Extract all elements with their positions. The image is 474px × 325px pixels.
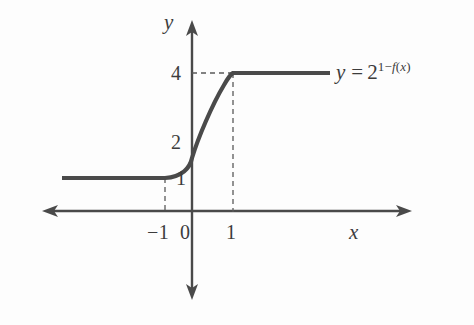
x-tick-label-one: 1 — [226, 222, 236, 242]
equation-lhs: y — [336, 60, 345, 84]
x-axis — [42, 205, 412, 217]
x-tick-label-neg1: −1 — [147, 222, 169, 242]
equation-equals: = — [345, 60, 367, 84]
equation-exponent: 1−f(x) — [378, 59, 411, 74]
curve-equation-label: y=21−f(x) — [336, 60, 411, 83]
equation-exponent-prefix: 1− — [378, 59, 392, 74]
figure-container: y x −1 0 1 4 2 1 y=21−f(x) — [0, 0, 474, 325]
equation-base: 2 — [367, 60, 378, 84]
x-tick-label-zero: 0 — [180, 222, 190, 242]
y-tick-label-two: 2 — [171, 132, 181, 152]
function-curve — [62, 73, 330, 178]
equation-exponent-close-paren: ) — [406, 59, 411, 74]
y-tick-label-four: 4 — [171, 63, 181, 83]
graph-canvas — [0, 0, 474, 325]
y-tick-label-one: 1 — [176, 168, 186, 188]
x-axis-label: x — [349, 222, 358, 243]
y-axis-label: y — [164, 12, 173, 33]
